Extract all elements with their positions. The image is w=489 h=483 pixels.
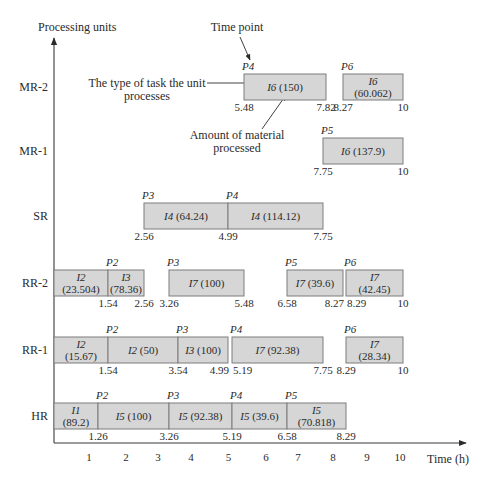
task-bar: I6 (150)P4 bbox=[241, 60, 326, 100]
task-bar: I4 (114.12)P4 bbox=[225, 189, 323, 229]
annotation-material-line1: Amount of material bbox=[190, 128, 285, 142]
task-amount: (100) bbox=[198, 277, 225, 290]
task-amount: (89.2) bbox=[63, 416, 90, 429]
time-value-label: 8.27 bbox=[333, 101, 353, 113]
task-bar: I5 (39.6)P4 bbox=[229, 389, 287, 429]
task-amount: (23.504) bbox=[62, 283, 100, 296]
task-label: I4 (114.12) bbox=[250, 210, 300, 223]
task-amount: (137.9) bbox=[350, 145, 385, 158]
gantt-chart: Processing units Time (h) Time point The… bbox=[0, 0, 489, 483]
time-point-label: P6 bbox=[340, 60, 354, 72]
time-value-label: 10 bbox=[398, 101, 410, 113]
task-amount: (100) bbox=[194, 344, 221, 357]
task-amount: (15.67) bbox=[65, 350, 97, 363]
task-amount: (100) bbox=[125, 410, 152, 423]
gantt-chart-figure: Processing units Time (h) Time point The… bbox=[0, 0, 489, 483]
task-type: I3 bbox=[120, 271, 131, 283]
task-bar: I5 (92.38)P3 bbox=[166, 389, 232, 429]
time-value-label: 5.19 bbox=[233, 364, 253, 376]
row-label: RR-2 bbox=[22, 276, 48, 290]
time-value-label: 7.75 bbox=[313, 230, 333, 242]
time-value-label: 4.99 bbox=[218, 230, 238, 242]
task-amount: (92.38) bbox=[188, 410, 223, 423]
time-value-label: 1.54 bbox=[98, 364, 118, 376]
time-point-label: P2 bbox=[105, 323, 119, 335]
time-value-label: 8.29 bbox=[336, 364, 356, 376]
task-bar: I5 (100)P2 bbox=[95, 389, 169, 429]
task-bar: I4 (64.24)P3 bbox=[141, 189, 228, 229]
task-type: I5 bbox=[178, 410, 189, 422]
task-type: I5 bbox=[311, 404, 322, 416]
task-bar: I2 (50)P2 bbox=[105, 323, 178, 363]
task-bar: I5(70.818)P5 bbox=[284, 389, 346, 429]
row-sr: SRI4 (64.24)P3I4 (114.12)P42.564.997.75 bbox=[33, 189, 333, 242]
row-rr-1: RR-1I2(15.67)I2 (50)P2I3 (100)P3I7 (92.3… bbox=[22, 323, 409, 376]
x-tick-label: 5 bbox=[226, 451, 232, 463]
task-amount: (150) bbox=[276, 81, 303, 94]
time-point-label: P4 bbox=[241, 60, 255, 72]
time-point-label: P3 bbox=[141, 189, 155, 201]
time-value-label: 8.29 bbox=[336, 430, 356, 442]
task-type: I7 bbox=[369, 338, 380, 350]
task-amount: (39.6) bbox=[249, 410, 279, 423]
task-label: I6 (137.9) bbox=[340, 145, 385, 158]
x-axis-label: Time (h) bbox=[427, 452, 469, 466]
task-amount: (28.34) bbox=[358, 350, 390, 363]
time-value-label: 10 bbox=[398, 364, 410, 376]
task-amount: (39.6) bbox=[305, 277, 335, 290]
task-amount: (92.38) bbox=[265, 344, 300, 357]
time-point-label: P5 bbox=[320, 124, 334, 136]
task-amount: (70.818) bbox=[298, 416, 336, 429]
task-type: I3 bbox=[184, 344, 195, 356]
task-amount: (64.24) bbox=[173, 210, 208, 223]
time-point-label: P2 bbox=[95, 389, 109, 401]
task-label: I5 (39.6) bbox=[239, 410, 279, 423]
task-amount: (60.062) bbox=[354, 87, 392, 100]
task-label: I3 (100) bbox=[184, 344, 221, 357]
task-type: I6 bbox=[340, 145, 351, 157]
time-value-label: 3.26 bbox=[159, 297, 179, 309]
task-label: I7 (92.38) bbox=[255, 344, 300, 357]
time-point-label: P4 bbox=[229, 323, 243, 335]
task-bar: I7 (39.6)P5 bbox=[284, 256, 343, 296]
task-bar: I7 (100)P3 bbox=[166, 256, 244, 296]
time-value-label: 8.29 bbox=[347, 297, 367, 309]
task-type: I7 bbox=[188, 277, 199, 289]
annotation-material-line2: processed bbox=[213, 141, 260, 155]
time-value-label: 2.56 bbox=[134, 297, 154, 309]
time-point-label: P5 bbox=[284, 389, 298, 401]
task-label: I2 (50) bbox=[127, 344, 159, 357]
row-label: MR-2 bbox=[19, 80, 48, 94]
task-bar: I6(60.062)P6 bbox=[340, 60, 403, 100]
task-type: I7 bbox=[369, 271, 380, 283]
time-value-label: 8.27 bbox=[325, 297, 345, 309]
task-bar: I3 (100)P3 bbox=[175, 323, 228, 363]
task-bar: I3(78.36)P2 bbox=[105, 256, 144, 296]
row-label: MR-1 bbox=[19, 144, 48, 158]
time-value-label: 7.75 bbox=[313, 165, 333, 177]
time-point-label: P3 bbox=[166, 389, 180, 401]
x-tick-label: 2 bbox=[123, 451, 129, 463]
task-bar: I2(23.504) bbox=[54, 270, 108, 296]
x-tick-label: 1 bbox=[86, 451, 92, 463]
x-tick-label: 9 bbox=[364, 451, 370, 463]
row-hr: HRI1(89.2)I5 (100)P2I5 (92.38)P3I5 (39.6… bbox=[31, 389, 356, 442]
x-tick-label: 3 bbox=[155, 451, 161, 463]
time-point-label: P3 bbox=[175, 323, 189, 335]
x-tick-label: 7 bbox=[295, 451, 301, 463]
time-point-label: P3 bbox=[166, 256, 180, 268]
time-value-label: 3.26 bbox=[159, 430, 179, 442]
time-point-label: P4 bbox=[225, 189, 239, 201]
task-label: I4 (64.24) bbox=[163, 210, 208, 223]
row-label: HR bbox=[31, 409, 48, 423]
rows-layer: MR-2I6 (150)P4I6(60.062)P65.487.828.2710… bbox=[19, 60, 409, 442]
time-point-label: P4 bbox=[229, 389, 243, 401]
task-type: I6 bbox=[266, 81, 277, 93]
task-type: I5 bbox=[115, 410, 126, 422]
task-type: I2 bbox=[75, 271, 86, 283]
row-rr-2: RR-2I2(23.504)I3(78.36)P2I7 (100)P3I7 (3… bbox=[22, 256, 409, 309]
annotation-task-type-line1: The type of task the unit bbox=[89, 76, 207, 90]
time-value-label: 7.75 bbox=[313, 364, 333, 376]
time-value-label: 5.48 bbox=[234, 297, 254, 309]
time-value-label: 6.58 bbox=[277, 430, 297, 442]
